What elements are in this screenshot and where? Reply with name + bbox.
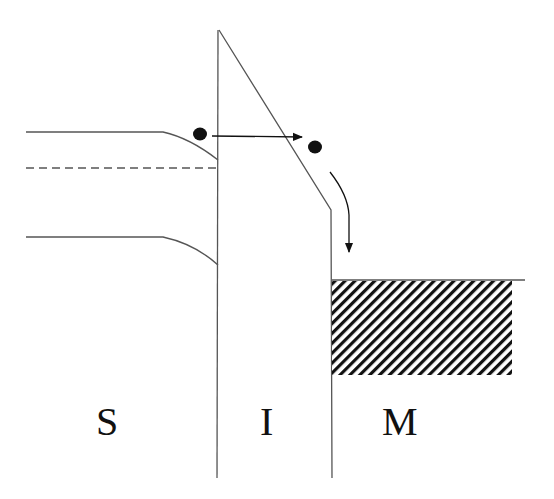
conduction-band-line xyxy=(26,132,218,160)
diagram-canvas xyxy=(0,0,554,499)
valence-band-line xyxy=(26,237,218,265)
metal-filled-states xyxy=(332,281,512,375)
electron-insulator xyxy=(308,141,322,154)
tunneling-arrow xyxy=(212,136,302,137)
label-insulator: I xyxy=(260,402,273,442)
electron-semiconductor xyxy=(193,128,207,141)
label-semiconductor: S xyxy=(96,402,118,442)
mis-band-diagram: S I M xyxy=(0,0,554,499)
label-metal: M xyxy=(382,402,418,442)
insulator-left-edge xyxy=(217,30,218,478)
relaxation-arrow xyxy=(330,172,349,252)
insulator-barrier-line xyxy=(219,30,332,478)
